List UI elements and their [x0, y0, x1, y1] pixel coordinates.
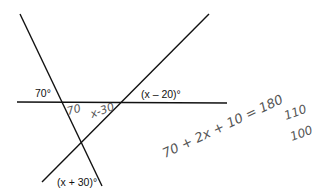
geometry-diagram: 70° (x – 20)° (x + 30)° 70 x-30 70 + 2x …	[0, 0, 334, 195]
handwritten-100: 100	[288, 123, 315, 144]
handwritten-x-minus-30: x-30	[88, 100, 116, 121]
angle-label-70: 70°	[35, 87, 51, 99]
handwritten-110: 110	[282, 102, 309, 123]
handwritten-70: 70	[65, 102, 82, 118]
transversal-right-line	[42, 14, 209, 182]
transversal-left-line	[20, 14, 102, 186]
angle-label-x-minus-20: (x – 20)°	[141, 88, 181, 100]
horizontal-line	[17, 102, 227, 103]
handwritten-equation: 70 + 2x + 10 = 180	[160, 92, 285, 161]
angle-label-x-plus-30: (x + 30)°	[57, 176, 97, 188]
